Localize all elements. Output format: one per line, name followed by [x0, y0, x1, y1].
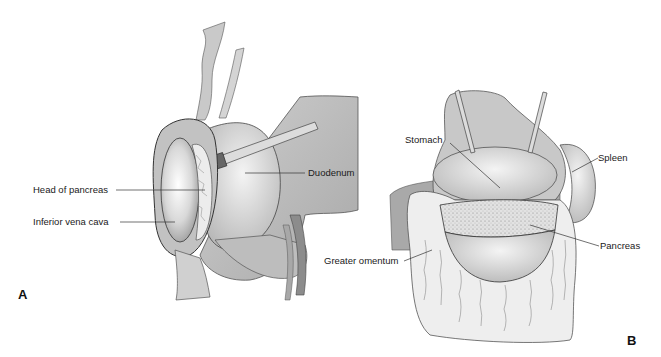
label-stomach: Stomach [405, 135, 443, 145]
label-spleen: Spleen [598, 153, 628, 163]
vessel-upper-2 [219, 48, 244, 118]
label-inferior-vena-cava: Inferior vena cava [33, 217, 109, 227]
panel-a-illustration [116, 22, 358, 300]
label-head-of-pancreas: Head of pancreas [33, 185, 108, 195]
panel-label-a: A [18, 287, 27, 302]
pancreas-shape [440, 200, 558, 237]
vessel-upper [196, 22, 225, 120]
label-greater-omentum: Greater omentum [324, 256, 398, 266]
panel-label-b: B [627, 333, 636, 348]
label-pancreas: Pancreas [600, 241, 640, 251]
panel-b-illustration [390, 90, 599, 342]
label-duodenum: Duodenum [308, 168, 354, 178]
illustration-canvas [0, 0, 661, 357]
